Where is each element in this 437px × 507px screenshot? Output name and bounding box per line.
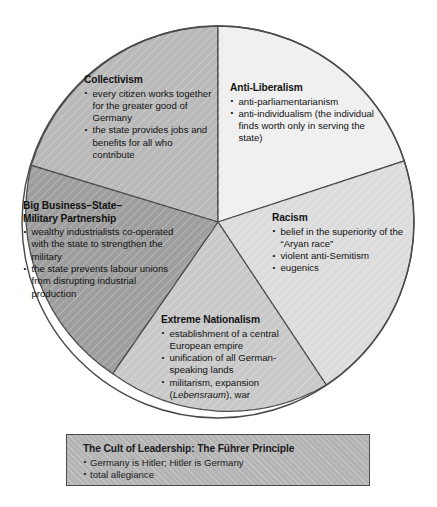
- segment-title-line-2: Military Partnership: [23, 213, 175, 226]
- list-item: anti-individualism (the individual finds…: [230, 108, 375, 145]
- cult-box-bullets: Germany is Hitler; Hitler is Germany tot…: [83, 457, 369, 481]
- segment-label-anti-liberalism: Anti-Liberalism anti-parliamentarianism …: [230, 82, 375, 145]
- list-item: eugenics: [272, 262, 412, 274]
- segment-bullets-big-business: wealthy industrialists co-operated with …: [23, 226, 175, 300]
- segment-label-racism: Racism belief in the superiority of the …: [272, 212, 412, 275]
- list-item: unification of all German-speaking lands: [161, 352, 304, 377]
- segment-title-anti-liberalism: Anti-Liberalism: [230, 82, 375, 95]
- list-item: Germany is Hitler; Hitler is Germany: [83, 457, 369, 469]
- segment-bullets-anti-liberalism: anti-parliamentarianism anti-individuali…: [230, 96, 375, 145]
- list-item: violent anti-Semitism: [272, 250, 412, 262]
- list-item: total allegiance: [83, 469, 369, 481]
- list-item: establishment of a central European empi…: [161, 328, 304, 353]
- list-item: the state prevents labour unions from di…: [23, 263, 175, 300]
- segment-label-extreme-nationalism: Extreme Nationalism establishment of a c…: [161, 314, 304, 401]
- segment-title-extreme-nationalism: Extreme Nationalism: [161, 314, 304, 327]
- segment-bullets-racism: belief in the superiority of the “Aryan …: [272, 226, 412, 275]
- list-item: the state provides jobs and benefits for…: [84, 124, 212, 161]
- cult-of-leadership-box: The Cult of Leadership: The Führer Princ…: [66, 434, 370, 486]
- list-item: belief in the superiority of the “Aryan …: [272, 226, 412, 251]
- segment-title-line-1: Big Business–State–: [23, 200, 175, 213]
- cult-box-body: Germany is Hitler; Hitler is Germany tot…: [83, 457, 369, 481]
- list-item: every citizen works together for the gre…: [84, 88, 212, 125]
- bullet-text-post: ), war: [226, 389, 250, 400]
- segment-label-big-business: Big Business–State– Military Partnership…: [23, 200, 175, 300]
- list-item: wealthy industrialists co-operated with …: [23, 226, 175, 263]
- list-item: militarism, expansion (Lebensraum), war: [161, 377, 304, 402]
- segment-title-collectivism: Collectivism: [84, 74, 212, 87]
- cult-box-title: The Cult of Leadership: The Führer Princ…: [83, 443, 369, 456]
- list-item: anti-parliamentarianism: [230, 96, 375, 108]
- nazi-ideology-pie-diagram: Collectivism every citizen works togethe…: [0, 0, 437, 507]
- bullet-text-italic: Lebensraum: [173, 389, 226, 400]
- segment-bullets-collectivism: every citizen works together for the gre…: [84, 88, 212, 162]
- segment-bullets-extreme-nationalism: establishment of a central European empi…: [161, 328, 304, 402]
- segment-title-racism: Racism: [272, 212, 412, 225]
- segment-title-big-business: Big Business–State– Military Partnership: [23, 200, 175, 225]
- segment-label-collectivism: Collectivism every citizen works togethe…: [84, 74, 212, 161]
